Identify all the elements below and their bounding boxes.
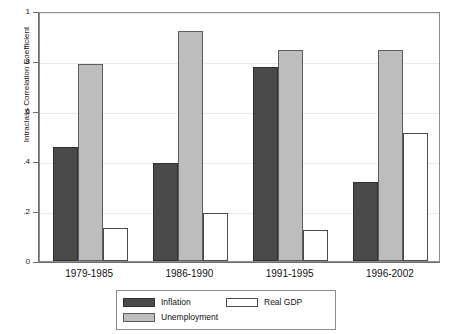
legend-swatch-real-gdp-icon (226, 298, 258, 307)
x-tick-label-1996-2002: 1996-2002 (345, 268, 435, 279)
y-tick-mark (33, 262, 38, 263)
y-tick-label: .4 (0, 158, 30, 166)
bar-unemployment-1986-1990 (178, 31, 203, 261)
bar-inflation-1996-2002 (353, 182, 378, 261)
bar-inflation-1979-1985 (53, 147, 78, 261)
legend-entry-inflation[interactable]: Inflation (123, 298, 226, 307)
bar-chart-figure: Intraclass Correlation Coefficient 0.2.4… (0, 0, 452, 334)
bar-inflation-1986-1990 (153, 163, 178, 261)
legend-label-real-gdp: Real GDP (264, 298, 302, 307)
y-axis-title: Intraclass Correlation Coefficient (22, 5, 31, 165)
y-tick-label: .2 (0, 208, 30, 216)
y-tick-mark (33, 162, 38, 163)
legend-entry-real-gdp[interactable]: Real GDP (226, 298, 329, 307)
x-tick-label-1991-1995: 1991-1995 (245, 268, 335, 279)
bar-realgdp-1991-1995 (303, 230, 328, 261)
legend-label-unemployment: Unemployment (161, 313, 218, 322)
bar-realgdp-1986-1990 (203, 213, 228, 261)
legend-swatch-unemployment-icon (123, 313, 155, 322)
y-tick-label: 1 (0, 8, 30, 16)
bar-unemployment-1996-2002 (378, 50, 403, 261)
x-tick-label-1986-1990: 1986-1990 (144, 268, 234, 279)
y-tick-mark (33, 112, 38, 113)
x-axis-line (33, 262, 440, 263)
bar-unemployment-1979-1985 (78, 64, 103, 262)
legend-row: Inflation Real GDP (123, 295, 329, 310)
x-tick-label-1979-1985: 1979-1985 (44, 268, 134, 279)
chart-legend: Inflation Real GDP Unemployment (116, 290, 336, 330)
bar-realgdp-1979-1985 (103, 228, 128, 261)
y-tick-mark (33, 62, 38, 63)
bars-layer (40, 13, 439, 261)
plot-area (39, 12, 440, 262)
y-tick-mark (33, 212, 38, 213)
legend-label-inflation: Inflation (161, 298, 191, 307)
bar-unemployment-1991-1995 (278, 50, 303, 261)
y-tick-label: 0 (0, 258, 30, 266)
y-tick-mark (33, 12, 38, 13)
y-tick-label: .6 (0, 108, 30, 116)
legend-row: Unemployment (123, 310, 329, 325)
legend-swatch-inflation-icon (123, 298, 155, 307)
bar-inflation-1991-1995 (253, 67, 278, 261)
y-tick-label: .8 (0, 58, 30, 66)
bar-realgdp-1996-2002 (403, 133, 428, 261)
legend-entry-unemployment[interactable]: Unemployment (123, 313, 226, 322)
